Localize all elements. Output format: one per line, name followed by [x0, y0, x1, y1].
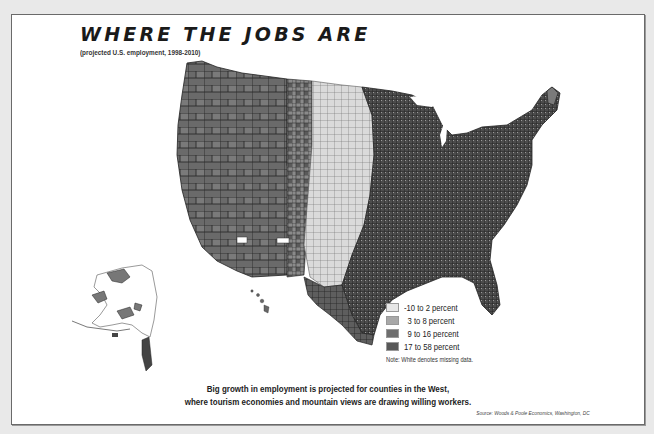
- region-west: [177, 61, 297, 277]
- legend-item: 9 to 16 percent: [386, 327, 485, 340]
- alaska: [72, 265, 157, 371]
- caption-line-1: Big growth in employment is projected fo…: [34, 383, 622, 396]
- source-credit: Source: Woods & Poole Economics, Washing…: [477, 410, 590, 416]
- hawaii: [251, 290, 269, 313]
- us-choropleth-map: [12, 15, 644, 424]
- legend-item: 3 to 8 percent: [386, 314, 485, 327]
- missing-data-2: [277, 238, 289, 243]
- legend-swatch: [386, 303, 399, 312]
- legend-item: -10 to 2 percent: [386, 301, 485, 314]
- caption-line-2: where tourism economies and mountain vie…: [34, 396, 622, 409]
- legend-item: 17 to 58 percent: [386, 340, 485, 353]
- legend-label: 3 to 8 percent: [404, 316, 454, 326]
- legend-label: 17 to 58 percent: [404, 342, 459, 352]
- map-legend: -10 to 2 percent 3 to 8 percent 9 to 16 …: [386, 301, 485, 363]
- legend-swatch: [386, 316, 399, 325]
- legend-label: -10 to 2 percent: [404, 303, 458, 313]
- contiguous-us: [177, 61, 560, 345]
- legend-swatch: [386, 329, 399, 338]
- missing-data-1: [237, 237, 247, 243]
- legend-label: 9 to 16 percent: [404, 329, 459, 339]
- legend-swatch: [386, 342, 399, 351]
- map-caption: Big growth in employment is projected fo…: [12, 383, 644, 409]
- region-east: [342, 87, 560, 335]
- map-card: WHERE THE JOBS ARE (projected U.S. emplo…: [11, 14, 645, 425]
- legend-note: Note: White denotes missing data.: [386, 356, 473, 363]
